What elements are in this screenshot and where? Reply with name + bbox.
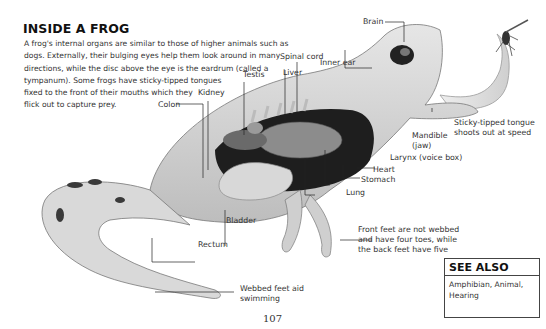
- label-tongue-line1: Sticky-tipped tongue: [454, 118, 535, 128]
- label-brain: Brain: [363, 17, 383, 27]
- label-webbed-feet-line2: swimming: [240, 294, 304, 304]
- label-testis: Testis: [243, 70, 265, 80]
- label-rectum: Rectum: [198, 240, 228, 250]
- label-inner-ear: Inner ear: [320, 58, 355, 68]
- see-also-body: Amphibian, Animal, Hearing: [445, 276, 539, 304]
- label-front-feet-line3: the back feet have five: [358, 245, 459, 255]
- label-heart: Heart: [373, 165, 395, 175]
- label-front-feet-line1: Front feet are not webbed: [358, 225, 459, 235]
- label-mandible-line2: (jaw): [412, 141, 447, 151]
- label-larynx: Larynx (voice box): [390, 153, 462, 163]
- label-front-feet-line2: and have four toes, while: [358, 235, 459, 245]
- label-colon: Colon: [158, 100, 180, 110]
- label-tongue-line2: shoots out at speed: [454, 128, 535, 138]
- label-stomach: Stomach: [361, 175, 395, 185]
- label-lung: Lung: [346, 188, 365, 198]
- see-also-links-line1[interactable]: Amphibian, Animal,: [449, 279, 535, 290]
- label-mandible-line1: Mandible: [412, 131, 447, 141]
- label-webbed-feet: Webbed feet aid swimming: [240, 284, 304, 304]
- label-bladder: Bladder: [226, 216, 256, 226]
- label-front-feet: Front feet are not webbed and have four …: [358, 225, 459, 255]
- label-spinal-cord: Spinal cord: [280, 52, 324, 62]
- page-number: 107: [263, 313, 282, 324]
- label-liver: Liver: [283, 68, 302, 78]
- label-kidney: Kidney: [198, 88, 225, 98]
- see-also-links-line2[interactable]: Hearing: [449, 290, 535, 301]
- label-webbed-feet-line1: Webbed feet aid: [240, 284, 304, 294]
- see-also-heading: SEE ALSO: [445, 259, 539, 276]
- see-also-box: SEE ALSO Amphibian, Animal, Hearing: [444, 258, 540, 318]
- label-tongue: Sticky-tipped tongue shoots out at speed: [454, 118, 535, 138]
- label-mandible: Mandible (jaw): [412, 131, 447, 151]
